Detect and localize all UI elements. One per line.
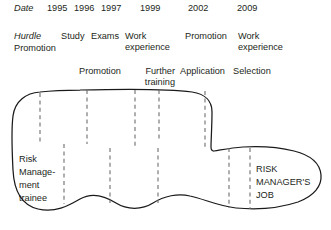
- blob-end-label-line-3: JOB: [256, 190, 274, 201]
- blob-start-label-line-2: Manage-: [19, 167, 55, 178]
- blob-start-label-line-1: Risk: [19, 154, 37, 165]
- career-path-blob: [0, 0, 331, 230]
- blob-start-label-line-3: ment: [19, 180, 39, 191]
- blob-end-label-line-2: MANAGER'S: [256, 177, 310, 188]
- blob-start-label-line-4: trainee: [19, 193, 47, 204]
- career-path-figure: Date 1995 1996 1997 1999 2002 2009 Hurdl…: [0, 0, 331, 230]
- blob-end-label-line-1: RISK: [256, 164, 277, 175]
